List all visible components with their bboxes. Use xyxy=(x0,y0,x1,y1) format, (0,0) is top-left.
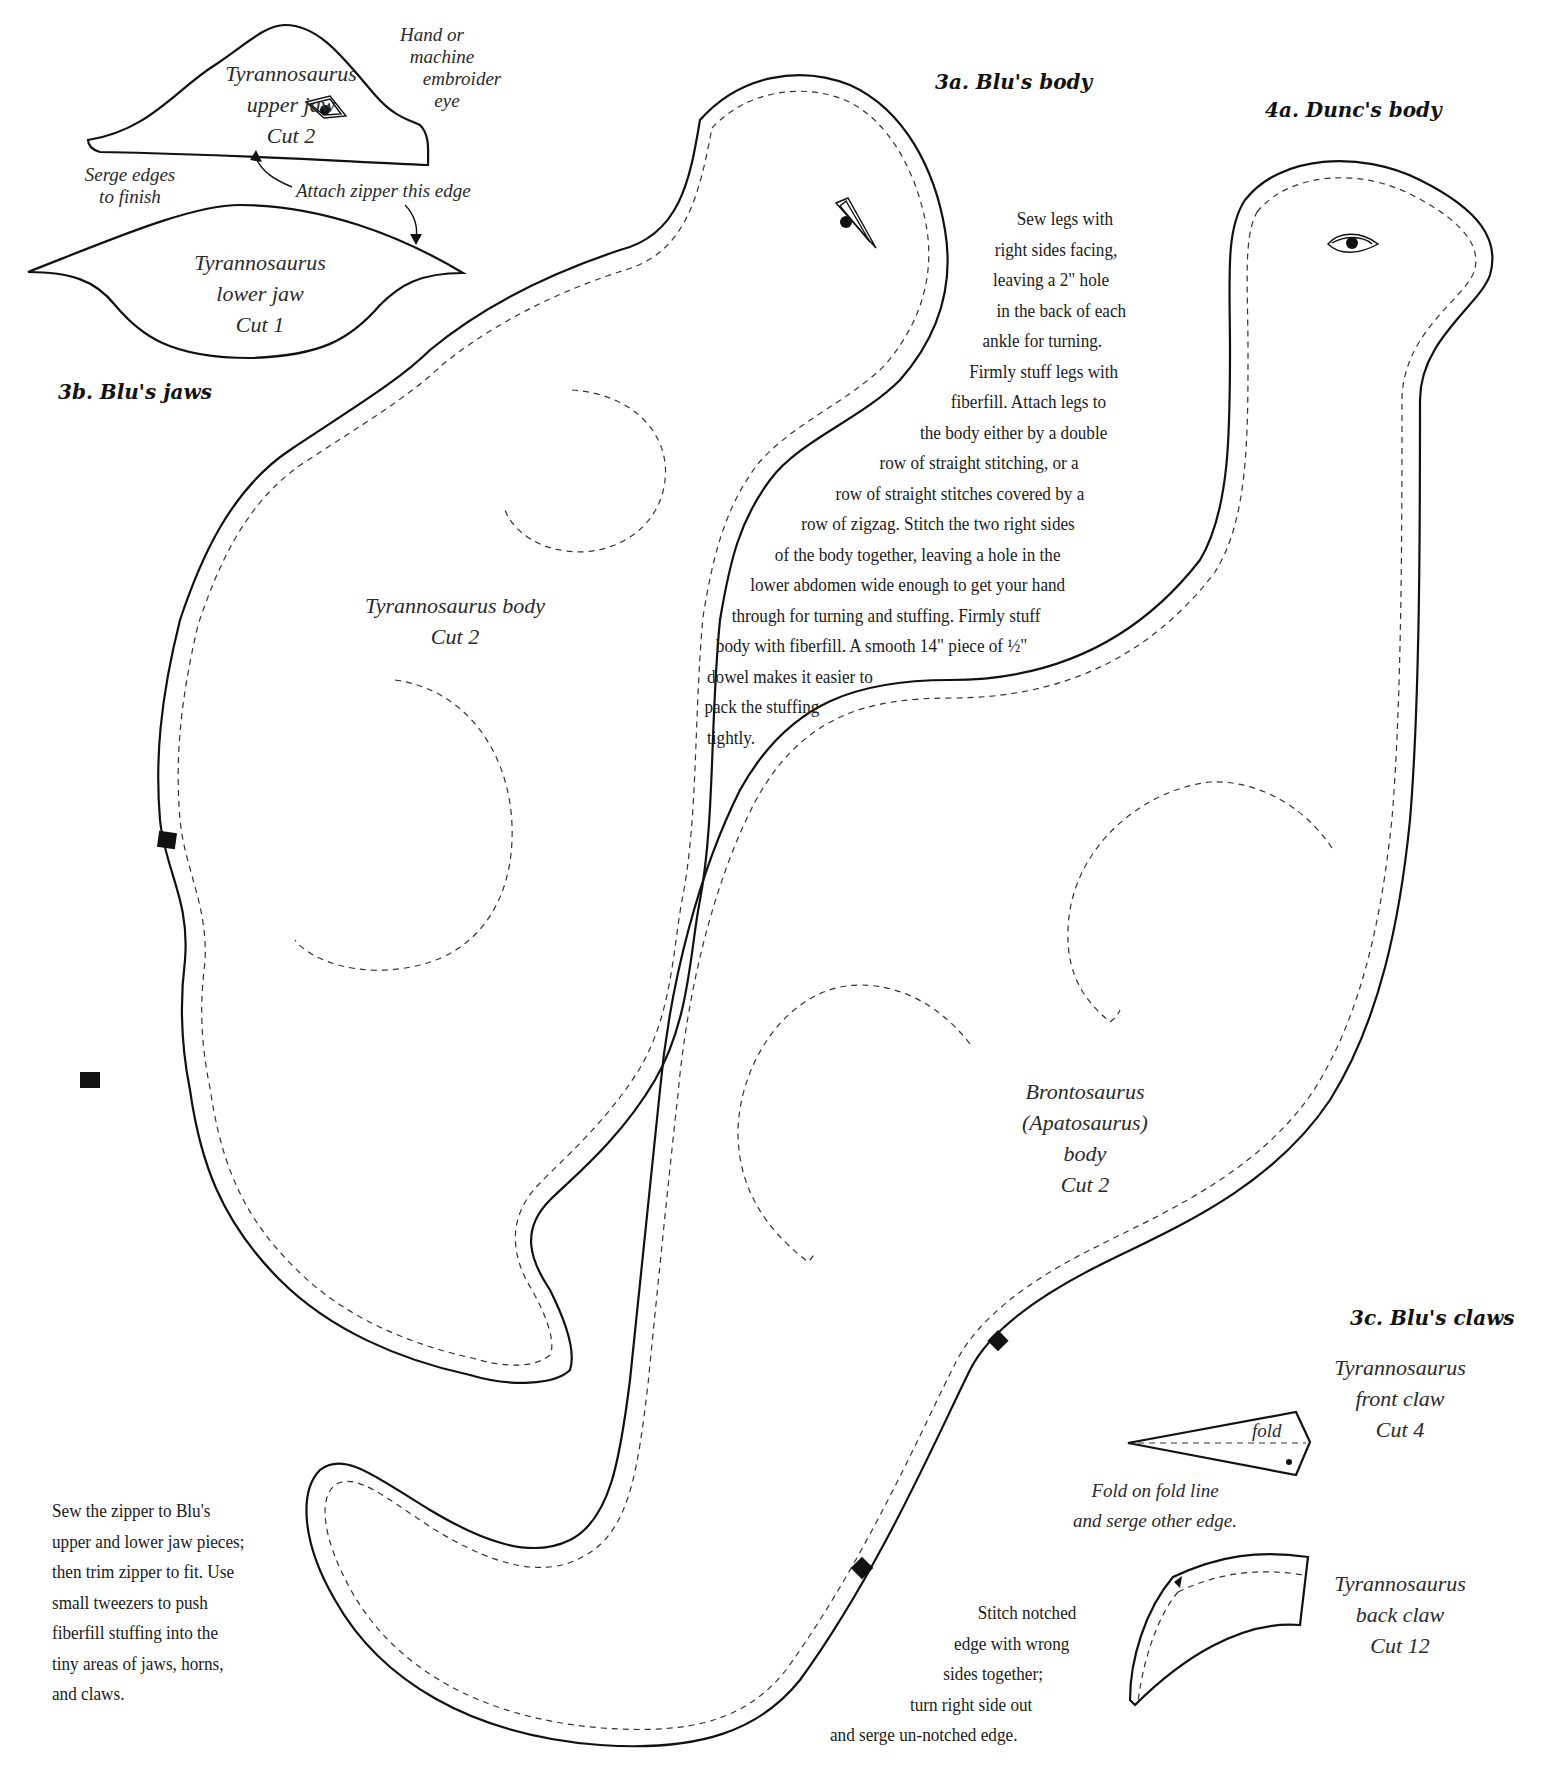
instruction-line: the body either by a double xyxy=(700,418,1140,449)
instruction-line: upper and lower jaw pieces; xyxy=(52,1527,245,1558)
lower-jaw-species: Tyrannosaurus xyxy=(175,247,345,278)
instruction-line: Sew the zipper to Blu's xyxy=(52,1496,245,1527)
instruction-line: small tweezers to push xyxy=(52,1588,245,1619)
upper-jaw-label: Tyrannosaurus upper jaw Cut 2 xyxy=(206,58,376,151)
instruction-line: ankle for turning. xyxy=(700,326,1140,357)
instruction-line: leaving a 2" hole xyxy=(700,265,1140,296)
piece-name-alt: (Apatosaurus) xyxy=(995,1107,1175,1138)
back-claw-note: Stitch notched edge with wrong sides tog… xyxy=(830,1598,1076,1751)
upper-jaw-part: upper jaw xyxy=(206,89,376,120)
blu-notch-markers xyxy=(80,831,177,1088)
section-heading-blu-body: 3a. Blu's body xyxy=(935,70,1092,94)
cut-count: Cut 2 xyxy=(995,1169,1175,1200)
dunc-eye-icon xyxy=(1328,234,1378,252)
instruction-line: row of straight stitches covered by a xyxy=(700,479,1140,510)
piece-part: front claw xyxy=(1315,1383,1485,1414)
instruction-line: lower abdomen wide enough to get your ha… xyxy=(700,570,1140,601)
upper-jaw-species: Tyrannosaurus xyxy=(206,58,376,89)
zipper-arrow-down-icon xyxy=(405,205,422,245)
back-claw-label: Tyrannosaurus back claw Cut 12 xyxy=(1315,1568,1485,1661)
piece-name: Brontosaurus xyxy=(995,1076,1175,1107)
serge-edges-note: Serge edges to finish xyxy=(70,164,190,208)
fold-line-label: fold xyxy=(1252,1420,1282,1442)
note-line: edge with wrong xyxy=(830,1629,1076,1660)
zipper-edge-note: Attach zipper this edge xyxy=(296,180,471,202)
piece-part: back claw xyxy=(1315,1599,1485,1630)
lower-jaw-cut-count: Cut 1 xyxy=(175,309,345,340)
leg-placement-guides xyxy=(295,390,666,970)
cut-count: Cut 4 xyxy=(1315,1414,1485,1445)
note-line: to finish xyxy=(70,186,190,208)
front-claw-label: Tyrannosaurus front claw Cut 4 xyxy=(1315,1352,1485,1445)
legs-and-body-instructions: Sew legs with right sides facing, leavin… xyxy=(700,204,1140,753)
instruction-line: through for turning and stuffing. Firmly… xyxy=(700,601,1140,632)
note-line: and serge un-notched edge. xyxy=(830,1720,1076,1751)
section-heading-blu-jaws: 3b. Blu's jaws xyxy=(58,380,212,404)
note-line: eye xyxy=(362,90,532,112)
instruction-line: dowel makes it easier to xyxy=(700,662,1140,693)
cut-count: Cut 2 xyxy=(335,621,575,652)
instruction-line: in the back of each xyxy=(700,296,1140,327)
zipper-arrow-up-icon xyxy=(250,150,292,187)
note-line: Fold on fold line xyxy=(1050,1476,1260,1506)
instruction-line: of the body together, leaving a hole in … xyxy=(700,540,1140,571)
instruction-line: row of straight stitching, or a xyxy=(700,448,1140,479)
note-line: machine xyxy=(352,46,532,68)
note-line: embroider xyxy=(392,68,532,90)
piece-name: Tyrannosaurus body xyxy=(335,590,575,621)
eye-embroidery-note: Hand or machine embroider eye xyxy=(372,24,532,112)
piece-name: Tyrannosaurus xyxy=(1315,1352,1485,1383)
instruction-line: body with fiberfill. A smooth 14" piece … xyxy=(700,631,1140,662)
section-heading-dunc-body: 4a. Dunc's body xyxy=(1265,98,1442,122)
zipper-instructions: Sew the zipper to Blu's upper and lower … xyxy=(52,1496,245,1710)
note-line: sides together; xyxy=(830,1659,1076,1690)
note-line: Hand or xyxy=(332,24,532,46)
back-claw-piece xyxy=(1130,1554,1308,1705)
piece-name: Tyrannosaurus xyxy=(1315,1568,1485,1599)
instruction-line: and claws. xyxy=(52,1679,245,1710)
lower-jaw-label: Tyrannosaurus lower jaw Cut 1 xyxy=(175,247,345,340)
instruction-line: row of zigzag. Stitch the two right side… xyxy=(700,509,1140,540)
instruction-line: pack the stuffing xyxy=(700,692,1140,723)
front-claw-note: Fold on fold line and serge other edge. xyxy=(1050,1476,1260,1536)
brontosaurus-body-label: Brontosaurus (Apatosaurus) body Cut 2 xyxy=(995,1076,1175,1200)
section-heading-blu-claws: 3c. Blu's claws xyxy=(1350,1306,1515,1330)
cut-count: Cut 12 xyxy=(1315,1630,1485,1661)
instruction-line: Firmly stuff legs with xyxy=(700,357,1140,388)
upper-jaw-cut-count: Cut 2 xyxy=(206,120,376,151)
tyrannosaurus-body-label: Tyrannosaurus body Cut 2 xyxy=(335,590,575,652)
note-line: Stitch notched xyxy=(830,1598,1076,1629)
instruction-line: Sew legs with xyxy=(700,204,1140,235)
lower-jaw-part: lower jaw xyxy=(175,278,345,309)
instruction-line: then trim zipper to fit. Use xyxy=(52,1557,245,1588)
instruction-line: fiberfill. Attach legs to xyxy=(700,387,1140,418)
instruction-line: right sides facing, xyxy=(700,235,1140,266)
piece-part: body xyxy=(995,1138,1175,1169)
instruction-line: tiny areas of jaws, horns, xyxy=(52,1649,245,1680)
note-line: Serge edges xyxy=(70,164,190,186)
instruction-line: fiberfill stuffing into the xyxy=(52,1618,245,1649)
instruction-line: tightly. xyxy=(700,723,1140,754)
front-claw-piece xyxy=(1128,1412,1310,1475)
note-line: and serge other edge. xyxy=(1050,1506,1260,1536)
note-line: turn right side out xyxy=(830,1690,1076,1721)
